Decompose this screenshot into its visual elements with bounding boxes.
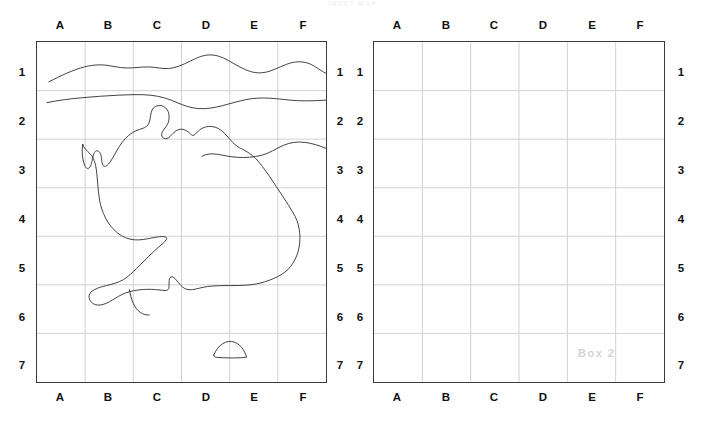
main-landmass-outline xyxy=(82,106,300,306)
far-right-row-label-4: 4 xyxy=(673,214,689,226)
far-right-row-label-6: 6 xyxy=(673,312,689,324)
gutter-left-row-label-5: 5 xyxy=(332,263,348,275)
right-col-label-d-top: D xyxy=(533,20,553,32)
map-panel-left[interactable] xyxy=(36,41,327,383)
faint-header-text: INSET MAP xyxy=(0,0,706,7)
gutter-right-row-label-1: 1 xyxy=(352,67,368,79)
left-col-label-b-bottom: B xyxy=(98,392,118,404)
peninsula-outline xyxy=(129,290,149,315)
far-left-row-label-5: 5 xyxy=(14,263,30,275)
small-island xyxy=(214,341,247,358)
far-right-row-label-1: 1 xyxy=(673,67,689,79)
right-col-label-c-top: C xyxy=(484,20,504,32)
right-col-label-a-bottom: A xyxy=(387,392,407,404)
far-left-row-label-3: 3 xyxy=(14,165,30,177)
far-right-row-label-2: 2 xyxy=(673,116,689,128)
right-col-label-f-top: F xyxy=(630,20,650,32)
left-col-label-e-bottom: E xyxy=(244,392,264,404)
right-col-label-f-bottom: F xyxy=(630,392,650,404)
gutter-left-row-label-4: 4 xyxy=(332,214,348,226)
box-2-watermark: Box 2 xyxy=(578,347,615,359)
gutter-left-row-label-1: 1 xyxy=(332,67,348,79)
far-right-row-label-7: 7 xyxy=(673,360,689,372)
left-col-label-b-top: B xyxy=(98,20,118,32)
right-col-label-b-bottom: B xyxy=(436,392,456,404)
left-col-label-a-bottom: A xyxy=(50,392,70,404)
gutter-right-row-label-4: 4 xyxy=(352,214,368,226)
right-col-label-d-bottom: D xyxy=(533,392,553,404)
right-col-label-b-top: B xyxy=(436,20,456,32)
gutter-left-row-label-2: 2 xyxy=(332,116,348,128)
upper-contour-line xyxy=(49,55,326,82)
screenshot-root: INSET MAP xyxy=(0,0,706,424)
left-col-label-d-top: D xyxy=(196,20,216,32)
far-left-row-label-4: 4 xyxy=(14,214,30,226)
gutter-right-row-label-5: 5 xyxy=(352,263,368,275)
gutter-left-row-label-6: 6 xyxy=(332,312,348,324)
far-left-row-label-7: 7 xyxy=(14,360,30,372)
gutter-right-row-label-3: 3 xyxy=(352,165,368,177)
second-contour-line xyxy=(47,95,326,109)
far-left-row-label-2: 2 xyxy=(14,116,30,128)
far-right-row-label-3: 3 xyxy=(673,165,689,177)
left-col-label-d-bottom: D xyxy=(196,392,216,404)
gutter-right-row-label-2: 2 xyxy=(352,116,368,128)
far-right-row-label-5: 5 xyxy=(673,263,689,275)
left-panel-graphics xyxy=(37,42,326,382)
right-col-label-a-top: A xyxy=(387,20,407,32)
gutter-right-row-label-7: 7 xyxy=(352,360,368,372)
far-left-row-label-6: 6 xyxy=(14,312,30,324)
left-col-label-a-top: A xyxy=(50,20,70,32)
grid-lines-right xyxy=(374,42,664,382)
map-panel-right[interactable]: Box 2 xyxy=(373,41,665,383)
grid-lines-left xyxy=(37,42,326,382)
right-col-label-e-bottom: E xyxy=(582,392,602,404)
right-panel-graphics xyxy=(374,42,664,382)
far-left-row-label-1: 1 xyxy=(14,67,30,79)
left-col-label-f-bottom: F xyxy=(293,392,313,404)
left-col-label-c-bottom: C xyxy=(147,392,167,404)
right-col-label-e-top: E xyxy=(582,20,602,32)
eastern-coast-branch xyxy=(202,142,326,157)
gutter-left-row-label-3: 3 xyxy=(332,165,348,177)
gutter-left-row-label-7: 7 xyxy=(332,360,348,372)
right-col-label-c-bottom: C xyxy=(484,392,504,404)
left-col-label-f-top: F xyxy=(293,20,313,32)
gutter-right-row-label-6: 6 xyxy=(352,312,368,324)
left-col-label-c-top: C xyxy=(147,20,167,32)
left-col-label-e-top: E xyxy=(244,20,264,32)
